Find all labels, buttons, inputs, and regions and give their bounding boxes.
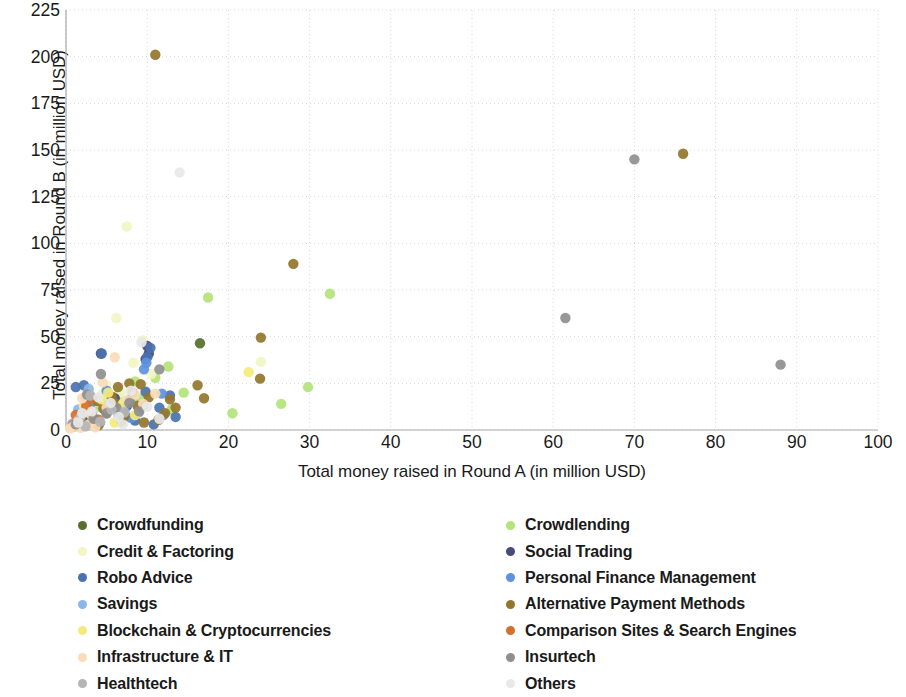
legend-item[interactable]: Insurtech bbox=[506, 644, 906, 670]
data-point bbox=[93, 392, 103, 402]
legend-marker-icon bbox=[506, 600, 515, 609]
legend-marker-icon bbox=[506, 573, 515, 582]
data-point bbox=[113, 382, 123, 392]
data-point bbox=[678, 149, 688, 159]
y-tick-label: 150 bbox=[2, 140, 60, 161]
data-point bbox=[128, 358, 138, 368]
data-point bbox=[163, 361, 173, 371]
data-point bbox=[105, 398, 115, 408]
x-tick-label: 50 bbox=[462, 432, 481, 453]
legend-item[interactable]: Social Trading bbox=[506, 538, 906, 564]
legend-item[interactable]: Blockchain & Cryptocurrencies bbox=[78, 618, 498, 644]
data-point bbox=[96, 369, 106, 379]
legend-marker-icon bbox=[78, 521, 87, 530]
legend-marker-icon bbox=[506, 521, 515, 530]
data-point bbox=[154, 414, 164, 424]
data-point bbox=[775, 359, 785, 369]
data-point bbox=[97, 348, 107, 358]
legend-item-label: Crowdlending bbox=[525, 516, 630, 534]
y-tick-label: 225 bbox=[2, 0, 60, 21]
legend-item-label: Blockchain & Cryptocurrencies bbox=[97, 622, 331, 640]
scatter-chart: Total money raised in Round B (in millio… bbox=[0, 0, 906, 697]
legend-item-label: Alternative Payment Methods bbox=[525, 595, 745, 613]
x-tick-label: 0 bbox=[61, 432, 71, 453]
data-point bbox=[227, 408, 237, 418]
data-points bbox=[65, 50, 786, 434]
data-point bbox=[195, 338, 205, 348]
series-insurtech bbox=[71, 154, 786, 429]
plot-canvas bbox=[66, 10, 878, 430]
legend-item[interactable]: Infrastructure & IT bbox=[78, 644, 498, 670]
legend-item-label: Crowdfunding bbox=[97, 516, 204, 534]
y-tick-label: 0 bbox=[2, 420, 60, 441]
data-point bbox=[170, 402, 180, 412]
data-point bbox=[303, 382, 313, 392]
legend-item[interactable]: Alternative Payment Methods bbox=[506, 591, 906, 617]
legend-item[interactable]: Others bbox=[506, 670, 906, 696]
legend-item-label: Personal Finance Management bbox=[525, 569, 756, 587]
y-tick-label: 50 bbox=[2, 326, 60, 347]
legend-item[interactable]: Crowdfunding bbox=[78, 512, 498, 538]
gridlines bbox=[66, 10, 878, 430]
data-point bbox=[255, 373, 265, 383]
legend-marker-icon bbox=[78, 626, 87, 635]
data-point bbox=[77, 408, 87, 418]
data-point bbox=[256, 332, 266, 342]
legend-item[interactable]: Comparison Sites & Search Engines bbox=[506, 618, 906, 644]
legend-item[interactable]: Savings bbox=[78, 591, 498, 617]
data-point bbox=[174, 167, 184, 177]
data-point bbox=[139, 364, 149, 374]
legend-marker-icon bbox=[506, 679, 515, 688]
legend-item-label: Robo Advice bbox=[97, 569, 193, 587]
legend-item-label: Credit & Factoring bbox=[97, 543, 234, 561]
data-point bbox=[629, 154, 639, 164]
legend-column-left: CrowdfundingCredit & FactoringRobo Advic… bbox=[78, 512, 498, 697]
data-point bbox=[276, 399, 286, 409]
data-point bbox=[122, 221, 132, 231]
data-point bbox=[154, 364, 164, 374]
x-tick-label: 30 bbox=[300, 432, 319, 453]
data-point bbox=[199, 393, 209, 403]
legend-marker-icon bbox=[506, 626, 515, 635]
data-point bbox=[126, 386, 136, 396]
legend-item-label: Healthtech bbox=[97, 675, 177, 693]
legend-item-label: Comparison Sites & Search Engines bbox=[525, 622, 797, 640]
legend-marker-icon bbox=[78, 547, 87, 556]
legend-marker-icon bbox=[506, 547, 515, 556]
legend-item[interactable]: Healthtech bbox=[78, 670, 498, 696]
legend-column-right: CrowdlendingSocial TradingPersonal Finan… bbox=[506, 512, 906, 697]
data-point bbox=[124, 398, 134, 408]
legend-item-label: Others bbox=[525, 675, 576, 693]
legend-marker-icon bbox=[78, 600, 87, 609]
data-point bbox=[150, 50, 160, 60]
data-point bbox=[118, 419, 128, 429]
y-tick-label: 75 bbox=[2, 280, 60, 301]
data-point bbox=[95, 416, 105, 426]
legend-marker-icon bbox=[78, 573, 87, 582]
y-axis-tick-labels: 0255075100125150175200225 bbox=[0, 10, 60, 430]
x-tick-label: 40 bbox=[381, 432, 400, 453]
data-point bbox=[150, 388, 160, 398]
y-tick-label: 100 bbox=[2, 233, 60, 254]
legend-item[interactable]: Crowdlending bbox=[506, 512, 906, 538]
data-point bbox=[288, 259, 298, 269]
data-point bbox=[111, 313, 121, 323]
legend-item[interactable]: Personal Finance Management bbox=[506, 565, 906, 591]
series-alternative-payment-methods bbox=[69, 50, 688, 432]
data-point bbox=[560, 313, 570, 323]
legend-item[interactable]: Credit & Factoring bbox=[78, 538, 498, 564]
y-tick-label: 25 bbox=[2, 373, 60, 394]
y-tick-label: 125 bbox=[2, 186, 60, 207]
x-tick-label: 10 bbox=[137, 432, 156, 453]
data-point bbox=[244, 367, 254, 377]
legend-marker-icon bbox=[78, 679, 87, 688]
x-tick-label: 70 bbox=[625, 432, 644, 453]
data-point bbox=[139, 417, 149, 427]
chart-legend: CrowdfundingCredit & FactoringRobo Advic… bbox=[0, 512, 906, 697]
x-tick-label: 80 bbox=[706, 432, 725, 453]
legend-marker-icon bbox=[78, 653, 87, 662]
legend-item-label: Social Trading bbox=[525, 543, 632, 561]
legend-item[interactable]: Robo Advice bbox=[78, 565, 498, 591]
x-axis-title: Total money raised in Round A (in millio… bbox=[66, 462, 878, 482]
y-tick-label: 175 bbox=[2, 93, 60, 114]
